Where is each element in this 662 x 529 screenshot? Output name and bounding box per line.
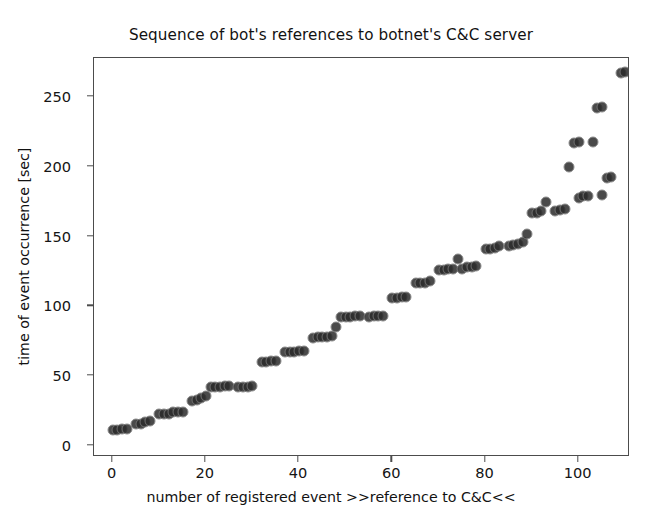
data-point <box>597 101 608 112</box>
data-point <box>200 390 211 401</box>
y-tick-label: 150 <box>43 227 71 244</box>
y-tick-mark <box>87 165 93 166</box>
data-point <box>522 228 533 239</box>
y-tick-label: 100 <box>43 297 71 314</box>
plot-area <box>93 57 629 456</box>
data-point <box>620 66 629 77</box>
y-tick-mark <box>87 305 93 306</box>
x-tick-label: 40 <box>289 464 308 481</box>
y-tick-mark <box>87 235 93 236</box>
data-point <box>298 345 309 356</box>
data-point <box>573 136 584 147</box>
data-point <box>270 355 281 366</box>
data-point <box>471 260 482 271</box>
data-point <box>424 276 435 287</box>
y-tick-mark <box>87 95 93 96</box>
x-tick-mark <box>111 456 112 462</box>
y-axis-label: time of event occurrence [sec] <box>14 57 34 456</box>
x-tick-label: 60 <box>382 464 401 481</box>
data-point <box>587 136 598 147</box>
data-point <box>331 322 342 333</box>
data-point <box>452 253 463 264</box>
chart-figure: Sequence of bot's references to botnet's… <box>0 0 662 529</box>
x-tick-label: 0 <box>107 464 116 481</box>
data-point <box>377 311 388 322</box>
data-point <box>597 189 608 200</box>
data-point <box>559 203 570 214</box>
x-tick-mark <box>577 456 578 462</box>
y-tick-label: 0 <box>62 436 71 453</box>
page-title: Sequence of bot's references to botnet's… <box>0 26 662 44</box>
x-tick-mark <box>297 456 298 462</box>
x-axis-label: number of registered event >>reference t… <box>0 489 662 505</box>
y-tick-mark <box>87 444 93 445</box>
x-tick-label: 20 <box>196 464 215 481</box>
data-point <box>541 196 552 207</box>
data-point <box>177 407 188 418</box>
x-tick-mark <box>204 456 205 462</box>
x-tick-mark <box>391 456 392 462</box>
data-point <box>606 171 617 182</box>
y-tick-label: 250 <box>43 88 71 105</box>
x-tick-mark <box>484 456 485 462</box>
y-tick-mark <box>87 374 93 375</box>
y-tick-label: 50 <box>52 367 71 384</box>
y-tick-label: 200 <box>43 157 71 174</box>
data-point <box>536 206 547 217</box>
x-tick-label: 80 <box>475 464 494 481</box>
data-point <box>247 380 258 391</box>
data-point <box>401 291 412 302</box>
x-tick-label: 100 <box>564 464 592 481</box>
data-point <box>583 191 594 202</box>
data-point <box>564 161 575 172</box>
